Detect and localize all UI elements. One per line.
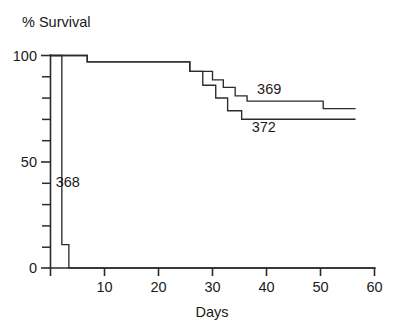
x-tick-label-20: 20 [150,279,166,295]
y-tick-label-50: 50 [21,154,37,170]
x-tick-label-10: 10 [96,279,112,295]
series-annotation-368: 368 [56,174,80,190]
series-annotation-372: 372 [252,119,276,135]
x-tick-label-30: 30 [204,279,220,295]
y-axis-title: % Survival [22,14,91,30]
survival-curve-368 [51,56,375,269]
survival-chart: 100 50 0 10 20 30 40 50 60 % Survival Da… [0,0,396,331]
x-axis-ticks [51,268,375,276]
x-tick-label-60: 60 [366,279,382,295]
x-tick-label-50: 50 [312,279,328,295]
x-axis-title: Days [195,304,228,320]
series-annotation-369: 369 [257,81,281,97]
y-tick-label-0: 0 [29,260,37,276]
y-axis-ticks [41,56,51,269]
y-tick-label-100: 100 [13,48,37,64]
survival-curve-372 [51,56,356,120]
x-tick-label-40: 40 [258,279,274,295]
chart-svg: 100 50 0 10 20 30 40 50 60 % Survival Da… [0,0,396,331]
